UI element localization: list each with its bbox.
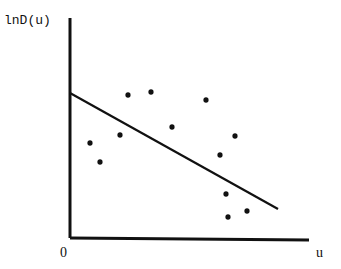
data-point (225, 214, 230, 220)
data-point (169, 124, 174, 130)
data-point (125, 92, 130, 98)
origin-label: 0 (60, 245, 67, 260)
regression-line (70, 93, 278, 209)
data-points (87, 89, 249, 220)
data-point (217, 152, 222, 158)
scatter-plot: lnD(u) 0 u (0, 0, 341, 269)
x-axis-label: u (316, 245, 323, 260)
y-axis-label: lnD(u) (4, 13, 51, 28)
data-point (223, 191, 228, 197)
data-point (117, 132, 122, 138)
data-point (97, 159, 102, 165)
data-point (232, 133, 237, 139)
data-point (87, 140, 92, 146)
data-point (203, 97, 208, 103)
data-point (244, 208, 249, 214)
data-point (148, 89, 153, 95)
